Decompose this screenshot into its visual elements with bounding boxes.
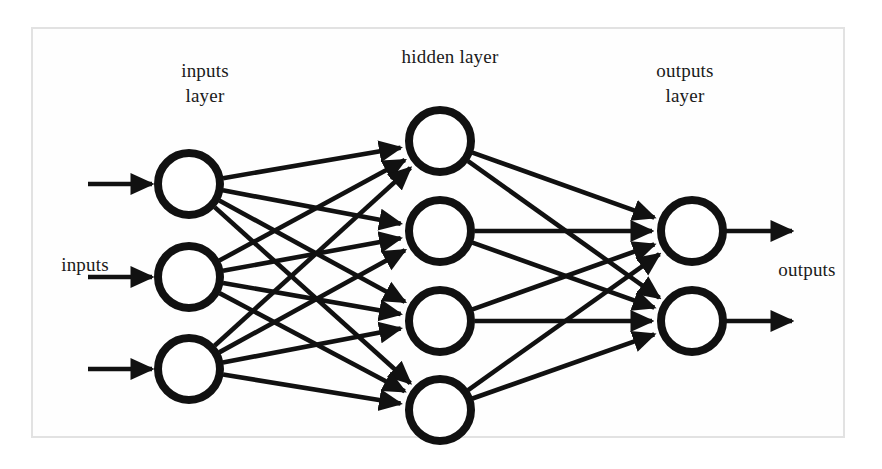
label-inputs-layer-line1: inputs [140,58,270,83]
label-inputs-side: inputs [30,252,140,277]
neuron-nodes [158,110,723,441]
label-outputs-layer: outputs layer [620,58,750,108]
label-outputs-layer-line2: layer [620,83,750,108]
edges-hidden-to-output [468,153,659,399]
neuron-node [409,200,471,262]
label-hidden-layer-text: hidden layer [370,44,530,69]
label-inputs-side-text: inputs [30,252,140,277]
label-outputs-layer-line1: outputs [620,58,750,83]
label-outputs-side-text: outputs [748,257,866,282]
neuron-node [661,290,723,352]
neuron-node [158,153,220,215]
neuron-node [158,246,220,308]
label-inputs-layer: inputs layer [140,58,270,108]
connection-edge [223,148,401,178]
figure-canvas: inputs layer hidden layer outputs layer … [0,0,882,469]
neuron-node [661,200,723,262]
label-outputs-side: outputs [748,257,866,282]
connection-edge [223,375,400,404]
neuron-node [409,290,471,352]
neuron-node [158,338,220,400]
neuron-node [409,379,471,441]
label-inputs-layer-line2: layer [140,83,270,108]
neuron-node [409,110,471,172]
label-hidden-layer: hidden layer [370,44,530,69]
edges-input-to-hidden [215,148,411,404]
